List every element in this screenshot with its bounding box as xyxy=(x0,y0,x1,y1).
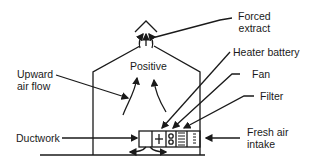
label-line: air flow xyxy=(17,80,53,92)
duct-unit xyxy=(139,131,200,147)
label-upward-air-flow: Upward air flow xyxy=(17,68,53,92)
label-line: Fresh air xyxy=(247,126,288,138)
label-positive: Positive xyxy=(130,60,167,72)
label-line: Upward xyxy=(17,68,53,80)
label-fresh-air-intake: Fresh air intake xyxy=(247,126,288,150)
label-filter: Filter xyxy=(260,90,283,102)
label-line: Forced xyxy=(238,10,271,22)
label-ductwork: Ductwork xyxy=(16,132,60,144)
label-line: extract xyxy=(238,22,271,34)
label-fan: Fan xyxy=(252,68,270,80)
label-forced-extract: Forced extract xyxy=(238,10,271,34)
label-heater-battery: Heater battery xyxy=(233,46,300,58)
upward-airflow-arrow-right xyxy=(154,80,166,112)
extract-hood xyxy=(135,21,157,32)
label-line: intake xyxy=(247,138,288,150)
